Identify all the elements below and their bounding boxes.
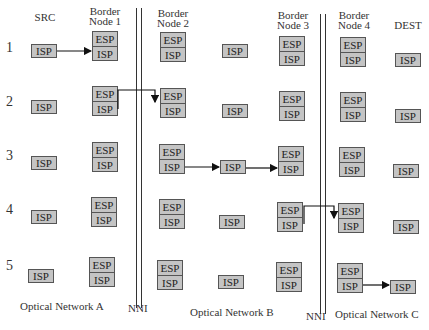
isp-label: ISP (161, 103, 185, 118)
border-node-2-node: ESP ISP (159, 144, 185, 174)
esp-label: ESP (158, 261, 182, 275)
esp-label: ESP (278, 203, 302, 217)
isp-label: ISP (341, 107, 365, 122)
esp-label: ESP (93, 32, 117, 46)
dest-isp: ISP (390, 280, 416, 294)
isp-label: ISP (93, 101, 117, 116)
header-border-node-2: Border Node 2 (152, 8, 194, 28)
label-nni-2: NNI (306, 310, 326, 322)
src-isp: ISP (31, 210, 57, 224)
header-line: Node 4 (333, 20, 375, 30)
net-b-isp: ISP (218, 275, 244, 289)
border-node-2-node: ESP ISP (160, 32, 186, 62)
esp-label: ESP (161, 89, 185, 103)
esp-label: ESP (92, 198, 116, 212)
border-node-1-node: ESP ISP (92, 31, 118, 61)
esp-label: ESP (280, 92, 304, 106)
row-number: 1 (6, 40, 13, 56)
border-node-2-node: ESP ISP (159, 199, 185, 229)
header-dest: DEST (390, 20, 426, 30)
border-node-3-node: ESP ISP (277, 202, 303, 232)
src-isp: ISP (31, 100, 57, 114)
label-optical-network-b: Optical Network B (190, 306, 274, 318)
esp-label: ESP (90, 258, 114, 272)
isp-label: ISP (160, 159, 184, 174)
isp-label: ISP (93, 157, 117, 172)
header-line: Node 1 (84, 16, 126, 26)
esp-label: ESP (341, 38, 365, 52)
border-node-3-node: ESP ISP (276, 262, 302, 292)
esp-label: ESP (93, 143, 117, 157)
isp-label: ISP (277, 277, 301, 292)
label-optical-network-a: Optical Network A (20, 300, 104, 312)
header-src: SRC (28, 12, 62, 22)
esp-label: ESP (160, 200, 184, 214)
net-b-isp: ISP (222, 44, 248, 58)
header-line: Node 2 (152, 18, 194, 28)
esp-label: ESP (277, 263, 301, 277)
label-optical-network-c: Optical Network C (335, 308, 419, 320)
esp-label: ESP (279, 147, 303, 161)
dest-isp: ISP (395, 53, 421, 67)
isp-label: ISP (280, 106, 304, 121)
nni-boundary-1 (136, 8, 142, 308)
border-node-1-node: ESP ISP (89, 257, 115, 287)
dest-isp: ISP (395, 109, 421, 123)
isp-label: ISP (338, 278, 362, 293)
isp-label: ISP (158, 275, 182, 290)
border-node-2-node: ESP ISP (157, 260, 183, 290)
isp-label: ISP (161, 47, 185, 62)
border-node-3-node: ESP ISP (279, 91, 305, 121)
esp-label: ESP (280, 37, 304, 51)
isp-label: ISP (279, 161, 303, 176)
border-node-3-node: ESP ISP (278, 146, 304, 176)
esp-label: ESP (341, 93, 365, 107)
esp-label: ESP (338, 264, 362, 278)
src-isp: ISP (31, 44, 57, 58)
border-node-4-node: ESP ISP (337, 263, 363, 293)
label-nni-1: NNI (128, 302, 148, 314)
src-isp: ISP (31, 156, 57, 170)
isp-label: ISP (339, 218, 363, 233)
esp-label: ESP (160, 145, 184, 159)
border-node-1-node: ESP ISP (91, 197, 117, 227)
border-node-4-node: ESP ISP (340, 92, 366, 122)
isp-label: ISP (92, 212, 116, 227)
net-b-isp: ISP (219, 215, 245, 229)
row-number: 5 (6, 258, 13, 274)
dest-isp: ISP (393, 220, 419, 234)
src-isp: ISP (28, 269, 54, 283)
border-node-1-node: ESP ISP (92, 86, 118, 116)
border-node-2-node: ESP ISP (160, 88, 186, 118)
border-node-1-node: ESP ISP (92, 142, 118, 172)
esp-label: ESP (161, 33, 185, 47)
dest-isp: ISP (393, 164, 419, 178)
isp-label: ISP (93, 46, 117, 61)
row-number: 4 (6, 202, 13, 218)
arrow-step-4 (304, 206, 334, 224)
header-border-node-1: Border Node 1 (84, 6, 126, 26)
isp-label: ISP (90, 272, 114, 287)
isp-label: ISP (341, 52, 365, 67)
row-number: 3 (6, 148, 13, 164)
row-number: 2 (6, 94, 13, 110)
header-border-node-3: Border Node 3 (272, 10, 314, 30)
net-b-isp: ISP (222, 104, 248, 118)
esp-label: ESP (339, 204, 363, 218)
header-border-node-4: Border Node 4 (333, 10, 375, 30)
isp-label: ISP (280, 51, 304, 66)
esp-label: ESP (340, 148, 364, 162)
esp-label: ESP (93, 87, 117, 101)
isp-label: ISP (278, 217, 302, 232)
isp-label: ISP (340, 162, 364, 177)
net-b-isp: ISP (220, 160, 246, 174)
isp-label: ISP (160, 214, 184, 229)
border-node-4-node: ESP ISP (338, 203, 364, 233)
border-node-3-node: ESP ISP (279, 36, 305, 66)
border-node-4-node: ESP ISP (340, 37, 366, 67)
header-line: Node 3 (272, 20, 314, 30)
border-node-4-node: ESP ISP (339, 147, 365, 177)
nni-boundary-2 (320, 14, 326, 314)
